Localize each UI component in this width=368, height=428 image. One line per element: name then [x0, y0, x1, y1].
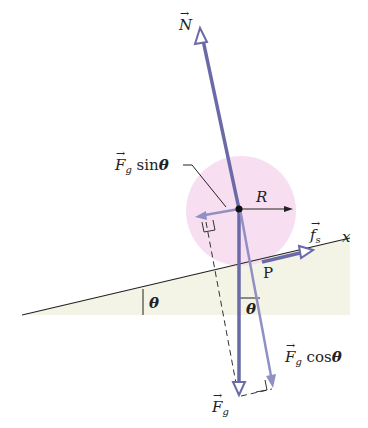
label-angle: θ [159, 156, 169, 174]
label-gravity-cos: Fg cosθ [285, 350, 342, 367]
label-func: cos [307, 348, 332, 366]
label-vector: F [115, 158, 125, 173]
label-func: sin [137, 156, 159, 174]
label-incline-angle: θ [149, 296, 159, 311]
label-force-angle: θ [246, 302, 256, 317]
label-contact-point: P [263, 266, 273, 281]
label-gravity: Fg [212, 400, 229, 417]
gravity-arrowhead [233, 382, 245, 395]
label-radius: R [256, 190, 267, 205]
label-gravity-sin: Fg sinθ [115, 158, 169, 175]
label-sub: s [316, 234, 321, 245]
right-angle-marker-bottom [256, 380, 267, 392]
label-normal-force: N [179, 18, 192, 33]
center-dot [236, 206, 243, 213]
label-axis-x: x [342, 230, 350, 245]
label-vector: f [310, 228, 316, 243]
gravity-cos-arrowhead [266, 374, 276, 388]
label-sub: g [222, 406, 228, 417]
label-sub: g [295, 356, 301, 367]
label-friction: fs [310, 228, 321, 245]
label-vector: F [212, 400, 222, 415]
label-angle: θ [332, 348, 342, 366]
label-vector: F [285, 350, 295, 365]
normal-force-arrowhead [195, 28, 207, 44]
label-sub: g [125, 164, 131, 175]
label-text: N [179, 18, 192, 33]
